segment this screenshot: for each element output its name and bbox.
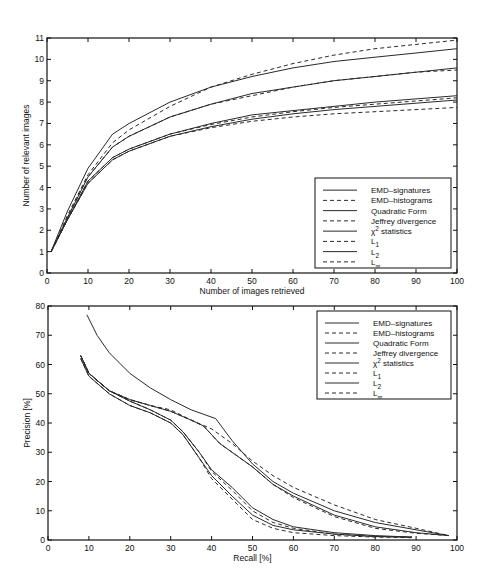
- legend: EMD–signaturesEMD–histogramsQuadratic Fo…: [315, 178, 451, 269]
- x-axis-label: Recall [%]: [233, 553, 271, 563]
- legend-label: Jeffrey divergence: [373, 349, 439, 358]
- legend: EMD–signaturesEMD–histogramsQuadratic Fo…: [317, 311, 451, 400]
- y-axis-label: Number of relevant images: [21, 104, 31, 206]
- y-tick-label: 5: [39, 161, 44, 171]
- y-tick-label: 10: [36, 506, 46, 516]
- x-tick-label: 50: [248, 543, 258, 553]
- y-axis-label: Precision [%]: [22, 398, 32, 448]
- y-tick-label: 8: [39, 97, 44, 107]
- retrieval-chart: 010203040506070809010001234567891011Numb…: [21, 33, 464, 296]
- legend-label: Quadratic Form: [373, 339, 429, 348]
- legend-label: EMD–signatures: [371, 186, 430, 195]
- y-tick-label: 20: [36, 477, 46, 487]
- x-axis-label: Number of images retrieved: [200, 286, 305, 296]
- y-tick-label: 1: [39, 247, 44, 257]
- y-tick-label: 9: [39, 76, 44, 86]
- legend-label: EMD–histograms: [371, 196, 432, 205]
- x-tick-label: 10: [84, 543, 94, 553]
- x-tick-label: 80: [370, 543, 380, 553]
- x-tick-label: 60: [288, 276, 298, 286]
- precision-recall-chart: 010203040506070809010001020304050607080R…: [22, 301, 464, 563]
- y-tick-label: 60: [36, 360, 46, 370]
- x-tick-label: 90: [411, 543, 421, 553]
- x-tick-label: 100: [450, 276, 464, 286]
- y-tick-label: 40: [36, 418, 46, 428]
- x-tick-label: 20: [125, 543, 135, 553]
- x-tick-label: 100: [450, 543, 464, 553]
- legend-label: EMD–histograms: [373, 329, 434, 338]
- x-tick-label: 0: [45, 276, 50, 286]
- y-tick-label: 3: [39, 204, 44, 214]
- y-tick-label: 2: [39, 225, 44, 235]
- y-tick-label: 70: [36, 330, 46, 340]
- x-tick-label: 40: [207, 543, 217, 553]
- y-tick-label: 6: [39, 140, 44, 150]
- y-tick-label: 7: [39, 118, 44, 128]
- y-tick-label: 11: [35, 33, 44, 43]
- x-tick-label: 30: [165, 276, 175, 286]
- legend-label: Jeffrey divergence: [371, 217, 437, 226]
- x-tick-label: 60: [289, 543, 299, 553]
- y-tick-label: 80: [36, 301, 46, 311]
- x-tick-label: 30: [166, 543, 176, 553]
- x-tick-label: 80: [370, 276, 380, 286]
- y-tick-label: 0: [40, 535, 45, 545]
- x-tick-label: 20: [124, 276, 134, 286]
- figure: 010203040506070809010001234567891011Numb…: [0, 0, 487, 587]
- y-tick-label: 50: [36, 389, 46, 399]
- x-tick-label: 70: [330, 543, 340, 553]
- x-tick-label: 90: [411, 276, 421, 286]
- y-tick-label: 10: [35, 54, 45, 64]
- x-tick-label: 10: [83, 276, 93, 286]
- y-tick-label: 0: [39, 268, 44, 278]
- x-tick-label: 0: [46, 543, 51, 553]
- x-tick-label: 70: [329, 276, 339, 286]
- legend-label: EMD–signatures: [373, 319, 432, 328]
- legend-label: Quadratic Form: [371, 207, 427, 216]
- y-tick-label: 30: [36, 447, 46, 457]
- x-tick-label: 40: [206, 276, 216, 286]
- y-tick-label: 4: [39, 183, 44, 193]
- x-tick-label: 50: [247, 276, 257, 286]
